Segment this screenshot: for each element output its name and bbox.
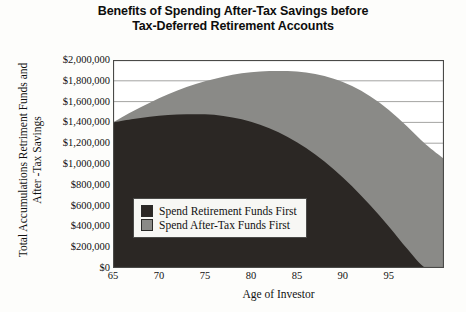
y-tick-label: $200,000	[38, 242, 110, 252]
legend-label: Spend Retirement Funds First	[159, 204, 297, 218]
y-tick-label: $400,000	[38, 221, 110, 231]
x-tick-label: 75	[190, 270, 220, 281]
legend-swatch-after-tax-first	[141, 219, 153, 231]
legend-item: Spend Retirement Funds First	[141, 204, 297, 218]
x-tick-label: 90	[328, 270, 358, 281]
y-tick-label: $800,000	[38, 180, 110, 190]
legend-label: Spend After-Tax Funds First	[159, 218, 290, 232]
y-tick-label: $2,000,000	[38, 55, 110, 65]
y-tick-label: $1,800,000	[38, 76, 110, 86]
y-axis-tick-labels: $2,000,000$1,800,000$1,600,000$1,400,000…	[34, 0, 110, 312]
x-tick-label: 70	[144, 270, 174, 281]
y-tick-label: $600,000	[38, 201, 110, 211]
y-tick-label: $1,600,000	[38, 97, 110, 107]
x-tick-label: 65	[98, 270, 128, 281]
y-tick-label: $1,200,000	[38, 138, 110, 148]
x-tick-label: 85	[282, 270, 312, 281]
y-tick-label: $1,000,000	[38, 159, 110, 169]
x-tick-label: 80	[236, 270, 266, 281]
y-axis-title-line-1: Total Accumulations Retriment Funds and	[16, 52, 30, 268]
chart-root: Benefits of Spending After-Tax Savings b…	[0, 0, 466, 312]
x-tick-label: 95	[374, 270, 404, 281]
legend-item: Spend After-Tax Funds First	[141, 218, 297, 232]
y-tick-label: $1,400,000	[38, 117, 110, 127]
legend-swatch-retirement-first	[141, 205, 153, 217]
legend: Spend Retirement Funds First Spend After…	[133, 198, 307, 238]
x-axis-title: Age of Investor	[113, 288, 444, 300]
